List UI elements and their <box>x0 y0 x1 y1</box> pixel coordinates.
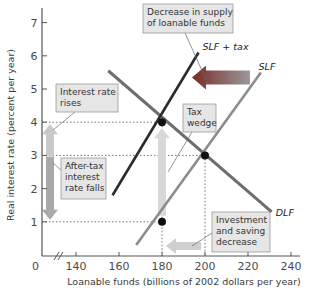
x-tick-label: 140 <box>66 260 87 273</box>
quantity-decrease-arrow <box>166 238 201 254</box>
x-axis-label: Loanable funds (billions of 2002 dollars… <box>67 276 301 287</box>
y-tick-label: 4 <box>31 116 38 129</box>
annotation-tax-wedge: Taxwedge <box>168 104 217 172</box>
annotation-leader-line <box>53 163 61 170</box>
annotation-text: After-tax <box>65 161 104 171</box>
annotation-text: Investment <box>216 215 267 225</box>
curve-label: DLF <box>276 207 295 218</box>
annotation-leader-line <box>168 132 192 172</box>
annotation-text: rises <box>60 98 81 108</box>
annotation-leader-line <box>192 233 212 246</box>
y-tick-label: 7 <box>31 17 38 30</box>
x-tick-label: 240 <box>281 260 302 273</box>
equilibrium-point-with-tax-demand <box>158 118 166 126</box>
annotation-text: decrease <box>216 237 257 247</box>
loanable-funds-chart: DLFSLFSLF + tax 140160180200220240 12345… <box>0 0 314 292</box>
y-tick-label: 3 <box>31 149 38 162</box>
rate-rise-arrow <box>42 124 58 155</box>
annotation-text: of loanable funds <box>147 18 225 28</box>
y-tick-label: 5 <box>31 83 38 96</box>
annotation-interest-rises: Interest raterises <box>53 84 118 130</box>
equilibrium-point-no-tax <box>201 151 209 159</box>
annotation-leader-line <box>53 112 75 130</box>
equilibrium-point-with-tax-supply <box>158 218 166 226</box>
annotation-after-tax-falls: After-taxinterestrate falls <box>53 158 106 199</box>
annotation-text: Decrease in supply <box>147 7 233 17</box>
x-tick-label: 200 <box>195 260 216 273</box>
annotation-text: Tax <box>186 107 203 117</box>
x-origin-label: 0 <box>32 260 39 273</box>
annotation-text: rate falls <box>65 183 105 193</box>
annotation-text: Interest rate <box>60 87 116 97</box>
y-axis-label: Real interest rate (percent per year) <box>5 49 16 221</box>
curve-label: SLF <box>259 61 276 72</box>
x-tick-label: 180 <box>152 260 173 273</box>
supply-shift-arrow <box>192 65 250 89</box>
curve-label: SLF + tax <box>203 41 249 52</box>
y-tick-label: 1 <box>31 216 38 229</box>
annotation-text: wedge <box>187 118 217 128</box>
y-tick-label: 2 <box>31 183 38 196</box>
y-tick-label: 6 <box>31 50 38 63</box>
x-tick-label: 220 <box>238 260 259 273</box>
annotation-text: and saving <box>216 226 265 236</box>
annotation-text: interest <box>65 172 100 182</box>
annotation-investment-decrease: Investmentand savingdecrease <box>192 212 270 252</box>
x-tick-label: 160 <box>109 260 130 273</box>
